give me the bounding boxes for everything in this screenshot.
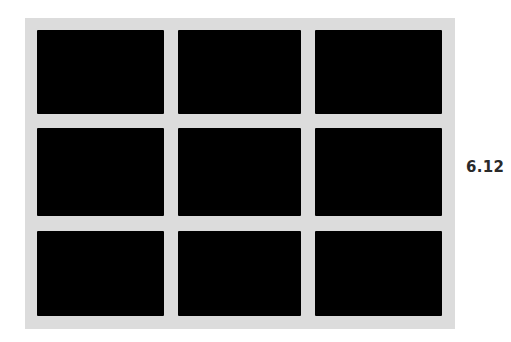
grid-cell-r1-c2	[178, 30, 301, 114]
grid-frame	[25, 18, 455, 329]
grid-cell-r1-c3	[315, 30, 442, 114]
grid-cell-r2-c2	[178, 128, 301, 216]
figure-number-label: 6.12	[466, 158, 504, 176]
grid-cell-r3-c1	[37, 231, 164, 316]
grid-cell-r2-c3	[315, 128, 442, 216]
grid-cell-r1-c1	[37, 30, 164, 114]
grid-cell-r3-c2	[178, 231, 301, 316]
grid-cell-r2-c1	[37, 128, 164, 216]
grid-cell-r3-c3	[315, 231, 442, 316]
